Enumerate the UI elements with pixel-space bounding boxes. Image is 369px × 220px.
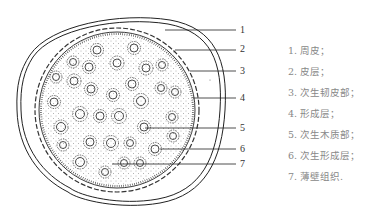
callout-7: 7 xyxy=(240,158,245,169)
legend-item-secondary-cambium: 6. 次生形成层； xyxy=(288,145,360,166)
legend-item-cortex: 2. 皮层； xyxy=(288,61,360,82)
legend-item-periderm: 1. 周皮； xyxy=(288,40,360,61)
legend-item-parenchyma: 7. 薄壁组织. xyxy=(288,166,360,187)
legend-item-cambium: 4. 形成层； xyxy=(288,103,360,124)
callout-4: 4 xyxy=(240,92,245,103)
callout-3: 3 xyxy=(240,65,245,76)
legend: 1. 周皮； 2. 皮层； 3. 次生韧皮部； 4. 形成层； 5. 次生木质部… xyxy=(288,40,360,187)
root-cross-section-diagram xyxy=(0,0,270,220)
callout-2: 2 xyxy=(240,43,245,54)
callout-5: 5 xyxy=(240,122,245,133)
parenchyma-region xyxy=(43,36,191,184)
callout-6: 6 xyxy=(240,143,245,154)
legend-item-secondary-phloem: 3. 次生韧皮部； xyxy=(288,82,360,103)
legend-item-secondary-xylem: 5. 次生木质部； xyxy=(288,124,360,145)
callout-1: 1 xyxy=(240,24,245,35)
